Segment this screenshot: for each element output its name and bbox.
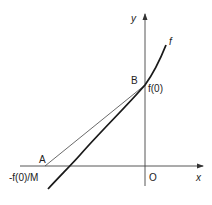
diagram-canvas: y x O f B f(0) A -f(0)/M <box>0 0 212 205</box>
y-axis-label: y <box>130 13 137 24</box>
point-B-label: B <box>131 75 138 86</box>
curve-f <box>48 45 166 189</box>
line-AB <box>45 85 145 166</box>
point-A-label: A <box>39 154 46 165</box>
curve-label: f <box>169 36 173 47</box>
f0-label: f(0) <box>148 83 163 94</box>
x-axis-label: x <box>195 172 202 183</box>
origin-label: O <box>149 172 157 183</box>
diagram: y x O f B f(0) A -f(0)/M <box>0 0 212 205</box>
neg-f0-over-M-label: -f(0)/M <box>9 172 38 183</box>
